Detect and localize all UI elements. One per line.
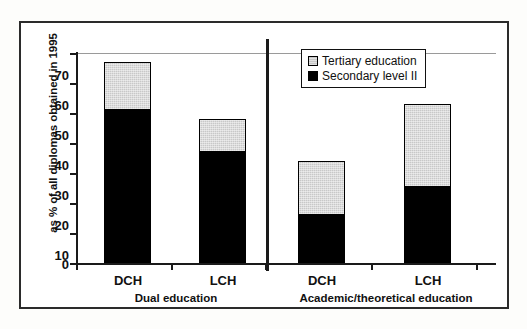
x-tick-mark-5 [476,263,478,270]
y-tick-mark-60 [70,83,78,85]
chart-legend: Tertiary education Secondary level II [301,49,426,88]
y-tick-label-30: 30 [43,189,69,202]
bar-segment-tertiary [104,62,151,110]
bar-segment-tertiary [298,161,345,215]
plot-area: as % of all diplomas obtained in 1995 70… [21,23,511,311]
legend-label-secondary: Secondary level II [322,70,417,82]
secondary-swatch-icon [308,71,318,81]
y-tick-mark-40 [70,143,78,145]
bar-segment-secondary [404,187,451,263]
x-category-label-academic-lch: LCH [397,273,459,288]
x-category-label-academic-dch: DCH [291,273,353,288]
x-tick-mark-4 [371,263,373,270]
x-tick-mark-1 [76,263,78,270]
bar-dual-lch[interactable] [199,119,246,263]
y-tick-label-0: 0 [43,258,69,271]
legend-item-secondary: Secondary level II [308,68,417,83]
plot-top-rule [76,53,496,54]
y-tick-mark-70 [70,53,78,55]
bar-segment-secondary [199,152,246,263]
x-category-label-dual-dch: DCH [97,273,159,288]
y-tick-mark-10 [70,233,78,235]
y-tick-mark-50 [70,113,78,115]
x-category-label-dual-lch: LCH [192,273,254,288]
bar-academic-lch[interactable] [404,104,451,263]
bar-dual-dch[interactable] [104,62,151,263]
x-axis-line [76,263,496,265]
bar-segment-secondary [298,215,345,263]
panel-divider [266,39,269,271]
bar-segment-tertiary [199,119,246,152]
legend-label-tertiary: Tertiary education [322,55,417,67]
y-tick-label-20: 20 [43,219,69,232]
group-label-dual-education: Dual education [101,292,251,304]
legend-item-tertiary: Tertiary education [308,53,417,68]
y-tick-mark-30 [70,173,78,175]
x-tick-mark-2 [171,263,173,270]
chart-figure-frame: as % of all diplomas obtained in 1995 70… [19,21,509,309]
bar-segment-secondary [104,110,151,263]
group-label-academic-education: Academic/theoretical education [271,292,501,304]
bar-segment-tertiary [404,104,451,187]
y-tick-mark-20 [70,203,78,205]
bar-academic-dch[interactable] [298,161,345,263]
y-tick-label-40: 40 [43,159,69,172]
scanned-page-background: as % of all diplomas obtained in 1995 70… [0,0,527,329]
tertiary-swatch-icon [308,56,318,66]
y-tick-label-60: 60 [43,99,69,112]
y-tick-label-70: 70 [43,69,69,82]
y-tick-label-50: 50 [43,129,69,142]
